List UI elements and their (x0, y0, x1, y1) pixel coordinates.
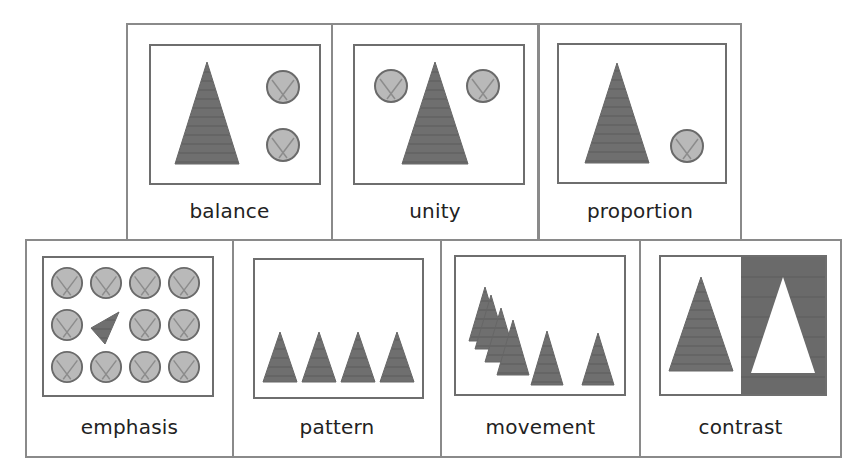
circle-shape (467, 70, 499, 102)
contrast-illustration (661, 257, 825, 394)
movement-illustration (456, 257, 624, 394)
card-label: emphasis (27, 415, 232, 439)
triangle-shape (341, 332, 375, 382)
emphasis-illustration (44, 258, 212, 395)
card-unity: unity (331, 23, 539, 241)
circle-shape (169, 268, 199, 298)
circle-shape (52, 310, 82, 340)
triangle-shape (263, 332, 297, 382)
card-label: proportion (540, 199, 740, 223)
triangle-shape (380, 332, 414, 382)
card-proportion: proportion (538, 23, 742, 241)
circle-shape (91, 352, 121, 382)
triangle-shape (585, 63, 649, 163)
circle-shape (130, 310, 160, 340)
triangle-shape (175, 62, 239, 164)
card-emphasis: emphasis (25, 239, 234, 458)
illustration-frame (557, 43, 727, 184)
illustration-frame (353, 44, 525, 185)
illustration-frame (659, 255, 827, 396)
circle-shape (375, 70, 407, 102)
triangle-shape (302, 332, 336, 382)
illustration-frame (42, 256, 214, 397)
card-contrast: contrast (639, 239, 842, 458)
card-label: balance (128, 199, 331, 223)
circle-shape (52, 268, 82, 298)
circle-shape (267, 129, 299, 161)
circle-shape (169, 310, 199, 340)
triangle-shape (402, 62, 468, 164)
pattern-illustration (255, 260, 422, 397)
card-balance: balance (126, 23, 333, 241)
circle-shape (267, 71, 299, 103)
dark-triangle-shape (669, 277, 733, 371)
circle-shape (130, 352, 160, 382)
circle-shape (169, 352, 199, 382)
triangle-shape (582, 333, 614, 385)
illustration-frame (253, 258, 424, 399)
card-label: pattern (234, 415, 440, 439)
balance-illustration (151, 46, 319, 183)
illustration-frame (454, 255, 626, 396)
card-pattern: pattern (232, 239, 442, 458)
card-label: contrast (641, 415, 840, 439)
card-label: movement (442, 415, 639, 439)
illustration-frame (149, 44, 321, 185)
triangle-shape (531, 331, 563, 385)
unity-illustration (355, 46, 523, 183)
card-movement: movement (440, 239, 641, 458)
circle-shape (130, 268, 160, 298)
card-label: unity (333, 199, 537, 223)
proportion-illustration (559, 45, 725, 182)
rotated-triangle-shape (91, 312, 119, 344)
circle-shape (52, 352, 82, 382)
circle-shape (671, 130, 703, 162)
circle-shape (91, 268, 121, 298)
